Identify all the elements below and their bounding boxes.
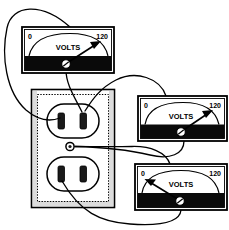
voltmeter-neutral-to-ground[interactable]: 0 120 VOLTS: [135, 164, 227, 210]
meter-middle-scale-max: 120: [209, 102, 221, 109]
center-screw-slot: [68, 145, 71, 148]
meter-bottom-scale-min: 0: [141, 170, 145, 177]
upper-receptacle-neutral-slot[interactable]: [58, 113, 65, 129]
upper-receptacle[interactable]: [47, 104, 99, 138]
upper-receptacle-body: [47, 104, 99, 138]
lower-receptacle-neutral-slot[interactable]: [58, 166, 65, 182]
meter-bottom-scale-max: 120: [209, 170, 221, 177]
lower-receptacle-body: [47, 157, 99, 191]
meter-middle-scale-min: 0: [144, 102, 148, 109]
duplex-wall-receptacle: [32, 90, 115, 208]
upper-receptacle-hot-slot[interactable]: [80, 113, 87, 129]
meter-top-scale-min: 0: [28, 33, 32, 40]
lower-receptacle[interactable]: [47, 157, 99, 191]
meter-bottom-unit-label: VOLTS: [169, 180, 193, 189]
voltmeter-hot-to-neutral[interactable]: 0 120 VOLTS: [22, 27, 114, 73]
meter-top-scale-max: 120: [96, 33, 108, 40]
figure-canvas: 0 120 VOLTS 0 120 VOLTS: [0, 0, 229, 230]
faceplate-left-bevel: [33, 91, 37, 206]
voltmeter-hot-to-ground[interactable]: 0 120 VOLTS: [138, 96, 227, 141]
meter-middle-unit-label: VOLTS: [169, 112, 193, 121]
meter-top-unit-label: VOLTS: [56, 43, 80, 52]
electrical-test-diagram: 0 120 VOLTS 0 120 VOLTS: [0, 0, 229, 230]
faceplate-center-screw[interactable]: [66, 142, 74, 150]
lower-receptacle-hot-slot[interactable]: [80, 166, 87, 182]
